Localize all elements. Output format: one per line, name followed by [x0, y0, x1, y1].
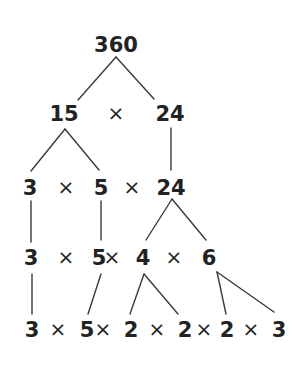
tree-edge: [217, 272, 226, 314]
multiply-sign: ×: [243, 317, 260, 341]
multiply-sign: ×: [124, 175, 141, 199]
multiply-sign: ×: [58, 245, 75, 269]
tree-row-1: 360: [94, 33, 138, 57]
tree-edge: [130, 274, 144, 314]
tree-edge: [116, 57, 154, 99]
tree-edge: [144, 274, 178, 314]
tree-row-2: 15×24: [49, 101, 184, 126]
tree-row-4: 3×5×4×6: [24, 245, 217, 270]
multiply-sign: ×: [166, 245, 183, 269]
multiply-sign: ×: [50, 317, 67, 341]
factor-node: 360: [94, 33, 138, 57]
factor-node: 4: [136, 246, 151, 270]
factor-node: 5: [80, 318, 95, 342]
factor-tree-diagram: 36015×243×5×243×5×4×63×5×2×2×2×3: [0, 0, 300, 390]
tree-row-3: 3×5×24: [23, 175, 186, 200]
factor-node: 15: [49, 102, 78, 126]
factor-node: 3: [23, 176, 38, 200]
factor-node: 2: [220, 318, 235, 342]
tree-edge: [88, 274, 101, 314]
multiply-sign: ×: [58, 175, 75, 199]
factor-node: 5: [94, 176, 109, 200]
tree-edge: [65, 129, 99, 170]
multiply-sign: ×: [95, 317, 112, 341]
multiply-sign: ×: [104, 245, 121, 269]
multiply-sign: ×: [149, 317, 166, 341]
factor-node: 3: [272, 318, 287, 342]
tree-edge: [217, 272, 274, 312]
tree-edge: [172, 199, 206, 240]
factor-node: 6: [202, 246, 217, 270]
multiply-sign: ×: [196, 317, 213, 341]
factor-node: 24: [156, 176, 185, 200]
multiply-sign: ×: [108, 101, 125, 125]
factor-node: 24: [155, 102, 184, 126]
factor-node: 2: [178, 318, 193, 342]
tree-row-5: 3×5×2×2×2×3: [25, 317, 287, 342]
factor-node: 2: [124, 318, 139, 342]
tree-edge: [31, 129, 65, 171]
tree-edge: [146, 199, 172, 240]
tree-nodes: 36015×243×5×243×5×4×63×5×2×2×2×3: [23, 33, 287, 342]
tree-edge: [78, 57, 116, 100]
factor-node: 3: [25, 318, 40, 342]
factor-node: 3: [24, 246, 39, 270]
